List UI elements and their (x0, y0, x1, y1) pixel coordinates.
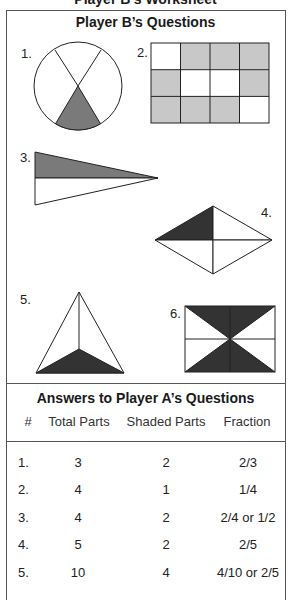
row-shaded-parts: 2 (148, 537, 184, 552)
question-figures (0, 0, 291, 390)
row-fraction: 1/4 (206, 482, 290, 497)
row-total-parts: 4 (60, 510, 96, 525)
answers-section-title: Answers to Player A’s Questions (0, 390, 291, 406)
row-total-parts: 4 (60, 482, 96, 497)
row-fraction: 2/4 or 1/2 (206, 510, 290, 525)
row-shaded-parts: 1 (148, 482, 184, 497)
triangle-figure-q3 (35, 152, 158, 205)
row-fraction: 2/3 (206, 455, 290, 470)
column-header-total-parts: Total Parts (46, 414, 112, 429)
row-number: 2. (18, 482, 34, 497)
grid-figure-q2 (151, 43, 269, 123)
row-shaded-parts: 2 (148, 510, 184, 525)
row-shaded-parts: 4 (148, 565, 184, 580)
circle-figure-q1 (34, 42, 122, 130)
column-header-number: # (20, 414, 36, 429)
row-shaded-parts: 2 (148, 455, 184, 470)
row-fraction: 4/10 or 2/5 (206, 565, 290, 580)
row-number: 1. (18, 455, 34, 470)
column-header-fraction: Fraction (216, 414, 278, 429)
column-header-shaded-parts: Shaded Parts (126, 414, 206, 429)
row-number: 3. (18, 510, 34, 525)
section-divider (6, 383, 286, 384)
row-number: 4. (18, 537, 34, 552)
triangle-figure-q5 (36, 292, 124, 373)
rhombus-figure-q4 (155, 206, 272, 274)
row-total-parts: 5 (60, 537, 96, 552)
row-total-parts: 10 (60, 565, 96, 580)
row-total-parts: 3 (60, 455, 96, 470)
rectangle-figure-q6 (185, 306, 275, 372)
row-number: 5. (18, 565, 34, 580)
table-header-divider (6, 441, 286, 442)
row-fraction: 2/5 (206, 537, 290, 552)
